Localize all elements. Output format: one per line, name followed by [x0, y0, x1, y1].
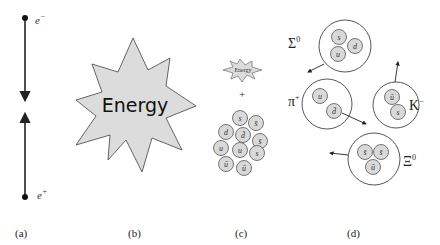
svg-text:ū: ū	[242, 164, 246, 173]
particle-diagram: e− e+ (a) Energy (b) Energy + s s̄ d d̄ …	[0, 0, 440, 245]
energy-label: Energy	[102, 94, 169, 116]
svg-text:u: u	[336, 50, 340, 59]
quark: s	[250, 146, 265, 161]
plus-sign: +	[239, 88, 245, 100]
panel-d: s d u Σ0 u d̄ π+ ū s K−	[288, 20, 424, 240]
caption-b: (b)	[128, 227, 141, 240]
k-minus-arrow-icon	[395, 62, 398, 82]
svg-text:u: u	[318, 92, 322, 101]
svg-text:s̄: s̄	[254, 119, 257, 128]
xi0-label: Ξ0	[403, 153, 416, 169]
quark: d	[219, 125, 234, 140]
caption-d: (d)	[347, 227, 360, 240]
svg-text:s: s	[255, 149, 258, 158]
caption-c: (c)	[235, 227, 248, 240]
svg-text:s: s	[238, 114, 241, 123]
quark: ū	[219, 157, 234, 172]
svg-text:s: s	[337, 33, 340, 42]
positron-label: e+	[37, 187, 47, 201]
svg-text:s: s	[396, 108, 399, 117]
svg-text:s̄: s̄	[379, 148, 382, 157]
quark: s	[233, 111, 248, 126]
k-minus-label: K−	[409, 97, 424, 113]
sigma0-label: Σ0	[288, 35, 300, 51]
caption-a: (a)	[15, 227, 28, 240]
quark: u	[233, 143, 248, 158]
hadron-xi0: s̄ s̄ ū Ξ0	[330, 133, 416, 185]
quark: ū	[237, 161, 252, 176]
svg-text:ū: ū	[390, 93, 394, 102]
positron-dot	[22, 194, 28, 200]
quark: u	[214, 141, 229, 156]
small-energy-label: Energy	[234, 67, 251, 73]
svg-text:ū: ū	[371, 163, 375, 172]
svg-text:u: u	[219, 144, 223, 153]
panel-a: e− e+ (a)	[15, 12, 47, 240]
sigma0-arrow-icon	[308, 64, 324, 72]
quark: s̄	[249, 116, 264, 131]
svg-text:ū: ū	[224, 160, 228, 169]
panel-c: Energy + s s̄ d d̄ s̄ u u s ū ū (c)	[214, 59, 268, 240]
hadron-k-minus: ū s K−	[373, 62, 424, 128]
hadron-sigma0: s d u Σ0	[288, 20, 371, 72]
panel-b: Energy (b)	[76, 38, 196, 240]
quark-cluster: s s̄ d d̄ s̄ u u s ū ū	[214, 111, 268, 176]
pi-plus-label: π+	[288, 93, 300, 109]
svg-text:s̄: s̄	[363, 148, 366, 157]
electron-label: e−	[35, 12, 45, 26]
svg-text:s̄: s̄	[258, 137, 261, 146]
svg-text:u: u	[238, 146, 242, 155]
quark: d̄	[236, 128, 251, 143]
xi0-arrow-icon	[330, 153, 348, 155]
hadron-pi-plus: u d̄ π+	[288, 79, 366, 129]
